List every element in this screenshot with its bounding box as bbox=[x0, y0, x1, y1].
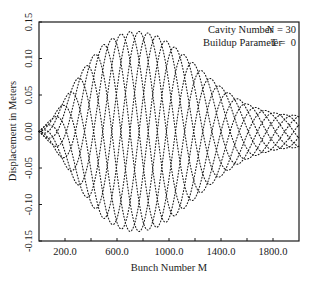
y-tick-label: 0.05 bbox=[23, 86, 34, 104]
displacement-curve bbox=[39, 45, 299, 232]
x-tick-label: 1400.0 bbox=[207, 246, 236, 257]
x-tick-label: 600.0 bbox=[105, 246, 129, 257]
legend-value-cavity-number: N = 30 bbox=[267, 24, 296, 35]
y-tick-label: 0.10 bbox=[23, 49, 34, 67]
displacement-curve bbox=[39, 32, 299, 223]
y-tick-label: 0.00 bbox=[23, 122, 34, 140]
displacement-curve bbox=[39, 32, 299, 219]
legend-label-cavity-number: Cavity Number bbox=[208, 24, 274, 35]
x-tick-label: 1800.0 bbox=[259, 246, 288, 257]
displacement-curve bbox=[39, 38, 299, 230]
x-axis-title: Bunch Number M bbox=[131, 262, 208, 273]
y-tick-label: -0.10 bbox=[23, 194, 34, 216]
legend: Cavity Number N = 30 Buildup Parameter T… bbox=[203, 24, 296, 48]
y-tick-label: 0.15 bbox=[23, 13, 34, 31]
y-axis-title: Displacement in Meters bbox=[7, 81, 18, 181]
displacement-curve bbox=[39, 34, 299, 227]
x-tick-label: 1000.0 bbox=[155, 246, 184, 257]
displacement-curve bbox=[39, 41, 299, 232]
y-tick-label: -0.05 bbox=[23, 157, 34, 179]
y-tick-label: -0.15 bbox=[23, 230, 34, 252]
displacement-curve bbox=[39, 36, 299, 229]
displacement-curves bbox=[39, 32, 299, 232]
displacement-curve bbox=[39, 33, 299, 225]
legend-value-buildup-parameter: T = 0 bbox=[271, 37, 296, 48]
x-tick-label: 200.0 bbox=[53, 246, 77, 257]
chart-canvas: 200.0600.01000.01400.01800.0 -0.15-0.10-… bbox=[0, 0, 312, 281]
